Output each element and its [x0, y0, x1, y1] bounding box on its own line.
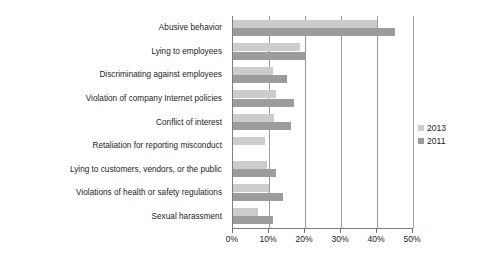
bar-group	[233, 181, 413, 205]
bar-2011	[233, 122, 291, 130]
category-label: Abusive behavior	[0, 23, 222, 32]
x-axis-tick-label: 50%	[392, 234, 432, 245]
bar-group	[233, 157, 413, 181]
category-label: Lying to customers, vendors, or the publ…	[0, 165, 222, 174]
x-axis-tick-label: 20%	[284, 234, 324, 245]
x-axis-tick	[340, 228, 341, 233]
x-axis-tick-label: 0%	[212, 234, 252, 245]
x-axis-line	[232, 228, 413, 229]
category-label: Violation of company Internet policies	[0, 94, 222, 103]
category-axis-labels: Abusive behaviorLying to employeesDiscri…	[0, 16, 228, 228]
legend-swatch-icon	[418, 125, 424, 131]
x-axis-tick-label: 40%	[356, 234, 396, 245]
bar-group	[233, 63, 413, 87]
bar-2013	[233, 67, 273, 75]
x-axis-tick	[268, 228, 269, 233]
legend-item: 2011	[418, 135, 446, 147]
bar-2013	[233, 43, 300, 51]
legend-label: 2013	[427, 123, 446, 133]
bar-2011	[233, 169, 276, 177]
bar-2011	[233, 216, 273, 224]
bar-group	[233, 134, 413, 158]
legend-item: 2013	[418, 122, 446, 134]
bar-2011	[233, 75, 287, 83]
gridline-50pct	[413, 16, 414, 228]
category-label: Conflict of interest	[0, 118, 222, 127]
bar-2013	[233, 161, 267, 169]
x-axis-tick	[232, 228, 233, 233]
bar-group	[233, 204, 413, 228]
bar-chart: Abusive behaviorLying to employeesDiscri…	[0, 0, 486, 260]
bar-2013	[233, 114, 274, 122]
legend-swatch-icon	[418, 138, 424, 144]
bar-2013	[233, 184, 269, 192]
bar-2013	[233, 208, 258, 216]
x-axis-tick-label: 10%	[248, 234, 288, 245]
bar-group	[233, 87, 413, 111]
bar-group	[233, 40, 413, 64]
x-axis-tick	[412, 228, 413, 233]
bar-2011	[233, 52, 305, 60]
bar-group	[233, 16, 413, 40]
bar-2011	[233, 28, 395, 36]
bar-2011	[233, 99, 294, 107]
plot-area	[232, 16, 413, 228]
category-label: Lying to employees	[0, 47, 222, 56]
bar-2013	[233, 20, 377, 28]
bar-2011	[233, 193, 283, 201]
x-axis-tick	[376, 228, 377, 233]
category-label: Discriminating against employees	[0, 70, 222, 79]
bar-group	[233, 110, 413, 134]
x-axis-tick-label: 30%	[320, 234, 360, 245]
category-label: Retaliation for reporting misconduct	[0, 141, 222, 150]
category-label: Sexual harassment	[0, 212, 222, 221]
bar-2013	[233, 137, 265, 145]
x-axis-tick	[304, 228, 305, 233]
legend-label: 2011	[427, 136, 445, 146]
bar-2013	[233, 90, 276, 98]
chart-legend: 20132011	[418, 122, 446, 148]
category-label: Violations of health or safety regulatio…	[0, 188, 222, 197]
